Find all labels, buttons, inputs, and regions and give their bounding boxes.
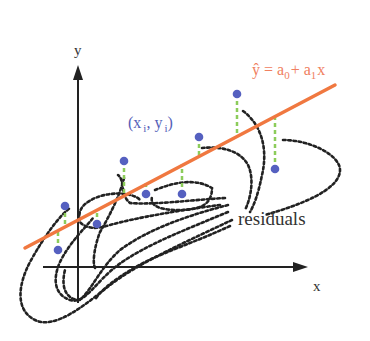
point-label: (xi, yi) — [128, 114, 173, 134]
residuals-label: residuals — [238, 208, 306, 229]
y-axis-label: y — [74, 42, 82, 58]
data-point — [120, 157, 129, 166]
contour-3 — [63, 205, 228, 300]
data-point — [271, 165, 280, 174]
x-axis-label: x — [313, 278, 321, 294]
x-axis-arrow-icon — [293, 262, 308, 272]
y-axis-arrow-icon — [73, 65, 83, 80]
contour-2 — [56, 212, 228, 301]
contour-outer — [20, 208, 232, 322]
data-point — [93, 220, 102, 229]
data-point — [54, 246, 63, 255]
regression-equation: ŷ = a0+ a1x — [252, 61, 325, 81]
regression-diagram: y x (xi, yi) ŷ = a0+ a1x residuals — [0, 0, 370, 341]
data-point — [61, 202, 70, 211]
contour-11 — [95, 226, 230, 300]
data-point — [178, 190, 187, 199]
data-point — [142, 190, 151, 199]
data-point — [233, 90, 242, 99]
data-point — [195, 133, 204, 142]
